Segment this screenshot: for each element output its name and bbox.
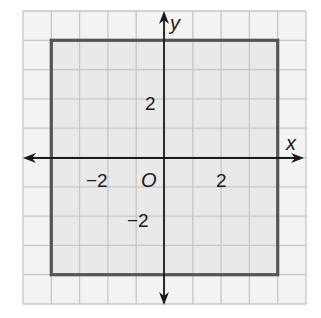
x-tick-label-neg2: −2	[86, 170, 108, 191]
x-axis-label: x	[285, 132, 297, 154]
y-tick-label-2: 2	[145, 93, 156, 114]
coordinate-plane: y x O −2 2 2 −2	[0, 0, 321, 318]
y-tick-label-neg2: −2	[127, 210, 149, 231]
x-tick-label-2: 2	[216, 170, 227, 191]
y-axis-label: y	[168, 12, 181, 34]
origin-label: O	[141, 169, 157, 191]
